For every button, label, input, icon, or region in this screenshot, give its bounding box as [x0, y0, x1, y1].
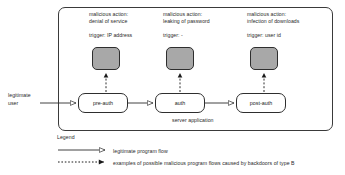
process-box-post-auth: post-auth	[236, 93, 286, 113]
legend-title: Legend	[57, 134, 75, 141]
diagram-canvas: legitimate user malicious action: denial…	[0, 0, 345, 175]
malicious-action-label-2-line1: malicious action:	[163, 11, 202, 18]
process-box-auth: auth	[155, 93, 205, 113]
malicious-action-label-1-line1: malicious action:	[89, 11, 128, 18]
trigger-label-3: trigger: user id	[247, 32, 281, 39]
malicious-action-label-2-line2: leaking of password	[163, 18, 210, 25]
malicious-action-label-1-line2: denial of service	[89, 18, 127, 25]
malicious-action-box-3	[250, 47, 278, 70]
process-box-pre-auth: pre-auth	[78, 93, 128, 113]
legitimate-user-label-line1: legitimate	[8, 92, 31, 99]
legend-entry-2-label: examples of possible malicious program f…	[113, 160, 295, 167]
malicious-action-box-1	[92, 47, 120, 70]
legitimate-user-label-line2: user	[8, 100, 18, 107]
process-label-pre-auth: pre-auth	[79, 100, 127, 106]
trigger-label-1: trigger: IP address	[89, 32, 132, 39]
malicious-action-label-3-line2: infection of downloads	[247, 18, 299, 25]
legend-entry-1-label: legitimate program flow	[113, 148, 168, 155]
malicious-action-label-3-line1: malicious action:	[247, 11, 286, 18]
process-label-post-auth: post-auth	[237, 100, 285, 106]
server-application-label: server application	[172, 117, 214, 124]
trigger-label-2: trigger: -	[163, 32, 183, 39]
process-label-auth: auth	[156, 100, 204, 106]
malicious-action-box-2	[166, 47, 194, 70]
